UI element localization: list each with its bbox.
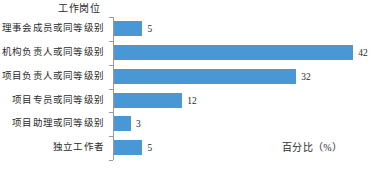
bar-row: 12 (113, 89, 375, 113)
bar (114, 116, 131, 131)
bar-row: 3 (113, 112, 375, 136)
bar-value-label: 12 (187, 94, 197, 108)
category-label: 理事会成员或同等级别 (0, 21, 108, 36)
bar (114, 140, 142, 155)
axis-tick (109, 89, 113, 90)
y-axis-title: 工作岗位 (58, 2, 100, 15)
bar-value-label: 5 (147, 22, 152, 36)
bar (114, 69, 296, 84)
axis-tick (109, 41, 113, 42)
category-label: 项目负责人或同等级别 (0, 69, 108, 84)
bar (114, 93, 182, 108)
bar-chart: 工作岗位 百分比（%） 理事会成员或同等级别机构负责人或同等级别项目负责人或同等… (0, 0, 383, 174)
category-label: 项目助理或同等级别 (0, 116, 108, 131)
axis-tick (109, 65, 113, 66)
bar-value-label: 32 (301, 70, 311, 84)
category-label: 独立工作者 (0, 140, 108, 155)
bar (114, 45, 353, 60)
bar-row: 5 (113, 17, 375, 41)
bar-row: 32 (113, 65, 375, 89)
bar-value-label: 3 (136, 117, 141, 131)
category-label-group: 理事会成员或同等级别机构负责人或同等级别项目负责人或同等级别项目专员或同等级别项… (0, 17, 108, 160)
axis-tick (109, 17, 113, 18)
bar-value-label: 5 (147, 141, 152, 155)
category-label: 机构负责人或同等级别 (0, 45, 108, 60)
bar-row: 5 (113, 136, 375, 160)
bar (114, 21, 142, 36)
axis-tick (109, 160, 113, 161)
bar-row: 42 (113, 41, 375, 65)
axis-tick (109, 112, 113, 113)
category-label: 项目专员或同等级别 (0, 93, 108, 108)
plot-area: 542321235 (113, 17, 375, 160)
bar-value-label: 42 (358, 46, 368, 60)
axis-tick (109, 136, 113, 137)
